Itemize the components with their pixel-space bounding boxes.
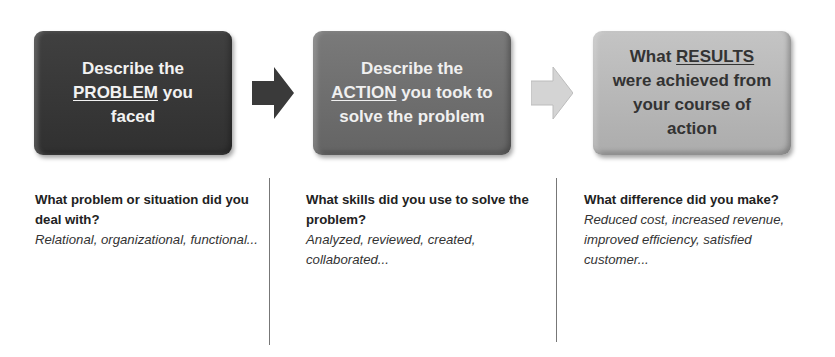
action-description: What skills did you use to solve the pro… [306, 190, 536, 270]
problem-description: What problem or situation did you deal w… [35, 190, 265, 250]
action-question: What skills did you use to solve the pro… [306, 190, 536, 230]
problem-question: What problem or situation did you deal w… [35, 190, 265, 230]
problem-box-text: Describe the PROBLEM you faced [52, 57, 214, 129]
problem-examples: Relational, organizational, functional..… [35, 230, 265, 250]
results-question: What difference did you make? [584, 190, 814, 210]
problem-box: Describe the PROBLEM you faced [34, 31, 232, 155]
problem-keyword: PROBLEM [73, 83, 158, 102]
results-examples: Reduced cost, increased revenue, improve… [584, 210, 814, 270]
results-box-text: What RESULTS were achieved from your cou… [611, 45, 773, 141]
results-box: What RESULTS were achieved from your cou… [593, 31, 791, 155]
action-box: Describe the ACTION you took to solve th… [313, 31, 511, 155]
action-keyword: ACTION [331, 83, 396, 102]
arrow-right-icon [252, 67, 294, 119]
column-divider [269, 178, 270, 345]
action-box-text: Describe the ACTION you took to solve th… [331, 57, 493, 129]
results-keyword: RESULTS [676, 47, 754, 66]
action-examples: Analyzed, reviewed, created, collaborate… [306, 230, 536, 270]
arrow-right-icon [531, 67, 573, 119]
results-description: What difference did you make? Reduced co… [584, 190, 814, 270]
column-divider [556, 178, 557, 342]
